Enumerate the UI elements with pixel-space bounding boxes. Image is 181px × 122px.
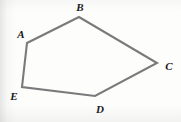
geometry-figure: A B C D E: [0, 0, 181, 122]
pentagon-drawing: [0, 0, 181, 122]
vertex-label-d: D: [96, 104, 104, 115]
vertex-label-b: B: [76, 2, 84, 13]
vertex-label-a: A: [17, 29, 25, 40]
pentagon-outline: [22, 17, 157, 96]
vertex-label-e: E: [10, 91, 18, 102]
vertex-label-c: C: [165, 61, 173, 72]
